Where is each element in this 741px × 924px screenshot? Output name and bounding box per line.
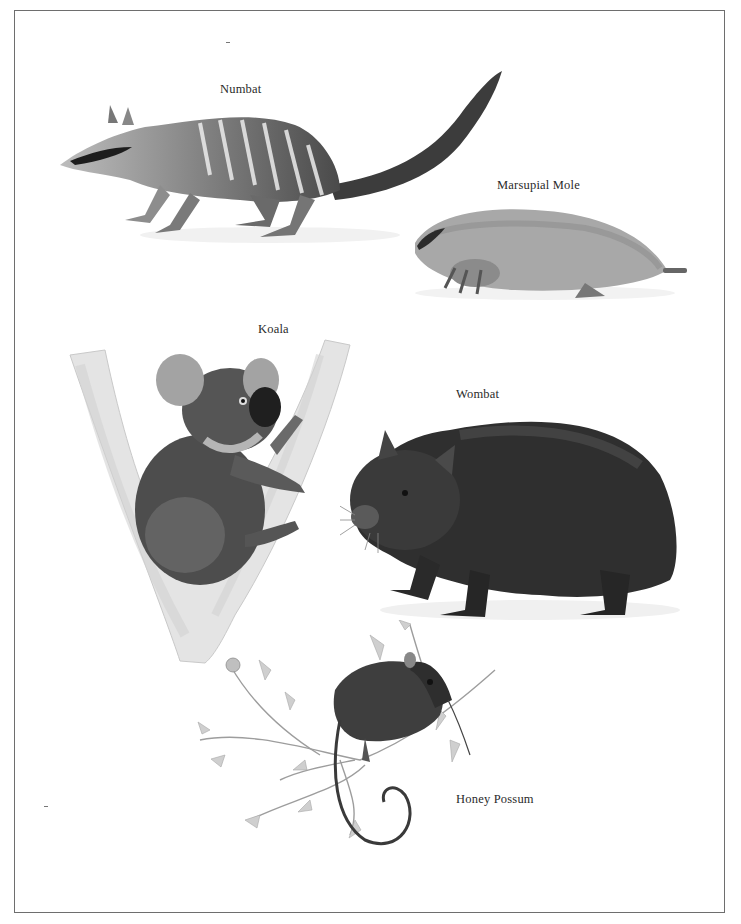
caption-wombat: Wombat [456, 387, 499, 402]
caption-marsupial-mole: Marsupial Mole [497, 178, 580, 193]
caption-honey-possum: Honey Possum [456, 792, 534, 807]
marsupial-mole-illustration [405, 198, 695, 303]
print-speck [226, 42, 230, 43]
honey-possum-illustration [190, 620, 510, 860]
print-speck [44, 806, 48, 807]
wombat-illustration [340, 405, 690, 630]
koala-illustration [65, 335, 355, 665]
